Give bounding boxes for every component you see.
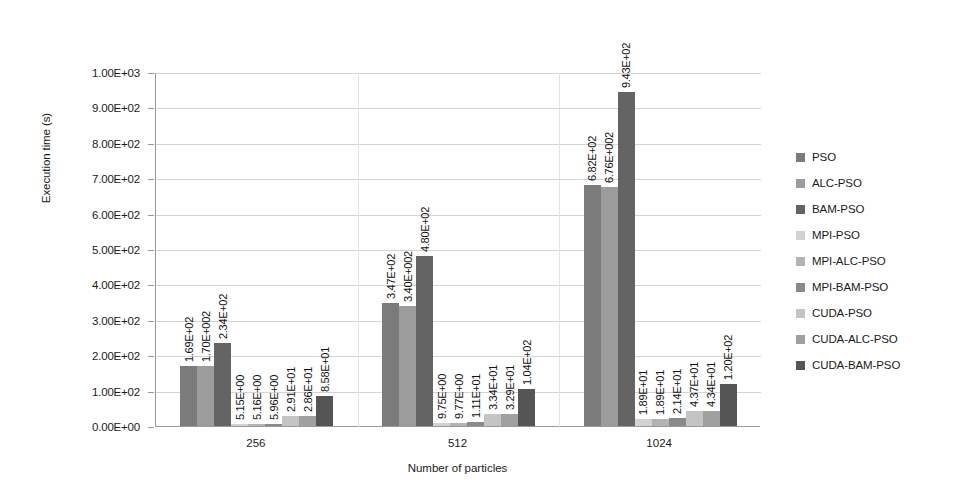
bar: 5.16E+00: [248, 424, 265, 426]
category-separator: [559, 73, 560, 427]
legend-swatch-icon: [796, 153, 805, 162]
legend-item[interactable]: BAM-PSO: [796, 196, 964, 222]
bar: 3.29E+01: [501, 414, 518, 426]
legend-item[interactable]: MPI-BAM-PSO: [796, 274, 964, 300]
y-axis-tick-label: 4.00E+02: [92, 280, 140, 291]
legend-label: MPI-ALC-PSO: [812, 255, 886, 267]
y-axis-tickmark: [148, 179, 154, 180]
bar-value-label: 1.70E+002: [201, 311, 212, 362]
legend-swatch-icon: [796, 231, 805, 240]
bar-value-label: 1.04E+02: [522, 340, 533, 385]
bar: 5.15E+00: [231, 424, 248, 426]
y-axis-tickmark: [148, 356, 154, 357]
gridline: [156, 321, 761, 322]
bar: 2.14E+01: [669, 418, 686, 426]
bar: 1.89E+01: [635, 419, 652, 426]
bar-value-label: 6.76E+002: [604, 132, 615, 183]
y-axis-tickmark: [148, 392, 154, 393]
bar: 5.96E+00: [265, 424, 282, 426]
bar: 9.77E+00: [450, 423, 467, 426]
category-separator: [358, 73, 359, 427]
bar-value-label: 3.40E+002: [403, 251, 414, 302]
bar-value-label: 1.89E+01: [655, 370, 666, 415]
gridline: [156, 250, 761, 251]
bar-value-label: 3.29E+01: [505, 365, 516, 410]
legend-label: CUDA-BAM-PSO: [812, 359, 900, 371]
y-axis-tick-label: 3.00E+02: [92, 315, 140, 326]
bar: 3.34E+01: [484, 414, 501, 426]
bar-value-label: 1.11E+01: [471, 374, 482, 418]
bar-chart: Execution time (s) 0.00E+001.00E+022.00E…: [0, 0, 968, 495]
bar: 1.70E+002: [197, 366, 214, 426]
bar-value-label: 4.37E+01: [689, 362, 700, 407]
legend-label: MPI-BAM-PSO: [812, 281, 888, 293]
y-axis-tick-label: 1.00E+03: [92, 68, 140, 79]
legend-item[interactable]: MPI-ALC-PSO: [796, 248, 964, 274]
legend-swatch-icon: [796, 335, 805, 344]
bar: 4.37E+01: [686, 411, 703, 426]
legend-item[interactable]: CUDA-ALC-PSO: [796, 326, 964, 352]
legend-swatch-icon: [796, 361, 805, 370]
bar-value-label: 2.14E+01: [672, 369, 683, 414]
bar-value-label: 4.80E+02: [420, 207, 431, 252]
legend-label: MPI-PSO: [812, 229, 860, 241]
gridline: [156, 356, 761, 357]
y-axis-tick-label: 7.00E+02: [92, 174, 140, 185]
legend-item[interactable]: CUDA-BAM-PSO: [796, 352, 964, 378]
bar-value-label: 1.89E+01: [638, 370, 649, 415]
legend-item[interactable]: PSO: [796, 144, 964, 170]
legend-item[interactable]: MPI-PSO: [796, 222, 964, 248]
bar-value-label: 5.16E+00: [252, 375, 263, 420]
bar-value-label: 8.58E+01: [320, 347, 331, 392]
legend-swatch-icon: [796, 309, 805, 318]
legend-label: CUDA-ALC-PSO: [812, 333, 898, 345]
gridline: [156, 179, 761, 180]
y-axis-tickmark: [148, 215, 154, 216]
x-axis-category-label: 512: [398, 437, 518, 449]
y-axis-tick-label: 2.00E+02: [92, 351, 140, 362]
x-axis-title: Number of particles: [155, 462, 760, 474]
bar: 1.04E+02: [518, 389, 535, 426]
bar-value-label: 2.86E+01: [303, 367, 314, 412]
y-axis-tickmark: [148, 108, 154, 109]
legend-swatch-icon: [796, 257, 805, 266]
y-axis-tick-labels: 0.00E+001.00E+022.00E+023.00E+024.00E+02…: [56, 73, 148, 427]
bar: 1.11E+01: [467, 422, 484, 426]
bar: 6.76E+002: [601, 187, 618, 426]
y-axis-tickmark: [148, 321, 154, 322]
legend-label: PSO: [812, 151, 836, 163]
bar: 4.80E+02: [416, 256, 433, 426]
gridline: [156, 285, 761, 286]
legend-item[interactable]: ALC-PSO: [796, 170, 964, 196]
y-axis-tickmark: [148, 73, 154, 74]
legend-item[interactable]: CUDA-PSO: [796, 300, 964, 326]
bar-value-label: 5.15E+00: [235, 375, 246, 420]
y-axis-tickmark: [148, 144, 154, 145]
bar: 1.20E+02: [720, 384, 737, 426]
bar-value-label: 9.77E+00: [454, 374, 465, 419]
y-axis-tick-label: 1.00E+02: [92, 386, 140, 397]
y-axis-tick-label: 8.00E+02: [92, 138, 140, 149]
bar: 8.58E+01: [316, 396, 333, 426]
x-axis-category-label: 1024: [599, 437, 719, 449]
bar-value-label: 1.69E+02: [184, 317, 195, 362]
y-axis-tick-label: 5.00E+02: [92, 245, 140, 256]
gridline: [156, 108, 761, 109]
bar-value-label: 9.75E+00: [437, 374, 448, 419]
legend-label: CUDA-PSO: [812, 307, 872, 319]
bar: 1.69E+02: [180, 366, 197, 426]
gridline: [156, 73, 761, 74]
plot-area: 1.69E+021.70E+0022.34E+025.15E+005.16E+0…: [155, 73, 760, 427]
bar-value-label: 9.43E+02: [621, 43, 632, 88]
bar-value-label: 6.82E+02: [587, 136, 598, 181]
legend: PSOALC-PSOBAM-PSOMPI-PSOMPI-ALC-PSOMPI-B…: [796, 144, 964, 378]
bar-value-label: 3.47E+02: [386, 254, 397, 299]
bar: 2.91E+01: [282, 416, 299, 426]
bar: 3.47E+02: [382, 303, 399, 426]
bar: 4.34E+01: [703, 411, 720, 426]
legend-swatch-icon: [796, 179, 805, 188]
y-axis-tickmark: [148, 285, 154, 286]
bar: 9.43E+02: [618, 92, 635, 426]
bar-value-label: 4.34E+01: [706, 362, 717, 407]
legend-swatch-icon: [796, 205, 805, 214]
